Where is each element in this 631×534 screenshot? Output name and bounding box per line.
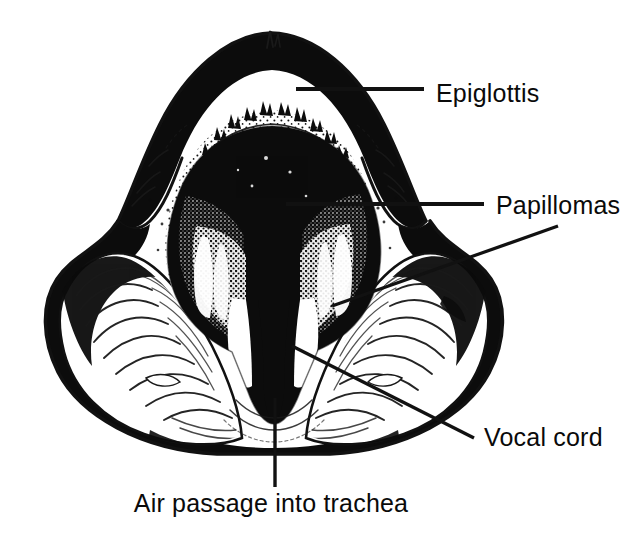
label-epiglottis: Epiglottis [436,79,539,107]
anatomy-illustration: Epiglottis Papillomas Vocal cord Air pas… [0,0,631,534]
label-air-passage-into-trachea: Air passage into trachea [134,489,408,517]
label-papillomas: Papillomas [496,191,620,219]
label-vocal-cord: Vocal cord [484,423,603,451]
laryngeal-papilloma-figure: Epiglottis Papillomas Vocal cord Air pas… [0,0,631,534]
